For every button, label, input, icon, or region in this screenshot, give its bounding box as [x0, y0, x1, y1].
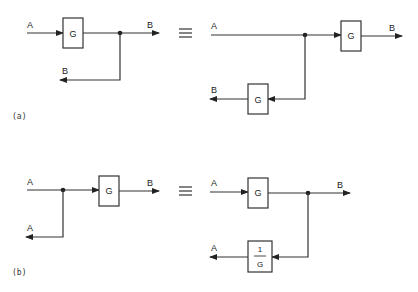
label-takeoff-a: A [211, 243, 217, 253]
takeoff-branch [268, 35, 305, 99]
caption-a: (a) [12, 112, 26, 121]
panel-a-right: A G B G B [210, 21, 402, 114]
block-g-forward-label: G [254, 188, 261, 198]
equivalence-symbol-b [179, 187, 192, 195]
takeoff-branch [272, 193, 308, 257]
block-g-takeoff-label: G [254, 95, 261, 105]
panel-b-right: A G B 1 G A [210, 178, 350, 272]
block-g-forward-label: G [347, 31, 354, 41]
label-takeoff-b: B [211, 85, 217, 95]
label-input-a: A [27, 177, 33, 187]
block-g-label: G [105, 186, 112, 196]
label-takeoff-b: B [62, 66, 68, 76]
label-input-a: A [211, 178, 217, 188]
label-output-b: B [147, 20, 153, 30]
block-inverse-g-denominator: G [257, 260, 263, 269]
label-output-b: B [147, 178, 153, 188]
block-inverse-g-numerator: 1 [258, 245, 263, 254]
label-input-a: A [211, 21, 217, 31]
label-takeoff-a: A [27, 223, 33, 233]
label-output-b: B [389, 23, 395, 33]
equivalence-symbol-a [179, 29, 192, 37]
caption-b: (b) [12, 268, 26, 277]
panel-a-left: A G B B [27, 18, 159, 80]
block-diagram-canvas: A G B B A G B G B (a) A G B [0, 0, 418, 292]
block-g-label: G [69, 29, 76, 39]
panel-b-left: A G B A [26, 176, 159, 237]
label-input-a: A [27, 20, 33, 30]
label-output-b: B [337, 180, 343, 190]
